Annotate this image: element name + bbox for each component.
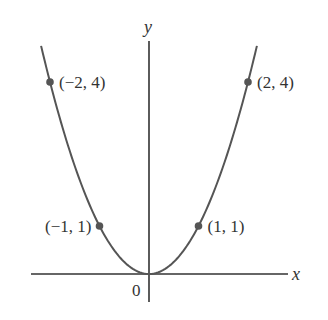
point-marker [244,78,252,86]
point-label: (2, 4) [257,73,294,92]
point-marker [46,78,54,86]
x-axis-label: x [291,264,300,284]
point-label: (−2, 4) [59,73,105,92]
points-group: (−2, 4)(−1, 1)(1, 1)(2, 4) [45,73,294,236]
origin-label: 0 [132,281,141,300]
parabola-chart: x y 0 (−2, 4)(−1, 1)(1, 1)(2, 4) [0,0,328,320]
point-label: (1, 1) [208,217,245,236]
point-marker [96,222,104,230]
point-marker [195,222,203,230]
point-label: (−1, 1) [45,217,91,236]
y-axis-label: y [142,17,152,37]
